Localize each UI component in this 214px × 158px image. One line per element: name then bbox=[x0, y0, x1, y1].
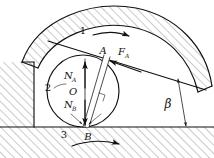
label-link-1: 1 bbox=[80, 25, 86, 36]
beta-angle-dimension bbox=[178, 79, 186, 126]
label-center-O: O bbox=[69, 86, 77, 97]
label-point-B: B bbox=[83, 131, 91, 142]
link1-motion-arrow-icon bbox=[93, 32, 129, 36]
label-force-FA: F A bbox=[117, 46, 130, 59]
diagram-canvas: 1 2 3 A B O F A N A N B β bbox=[0, 0, 214, 158]
label-point-A: A bbox=[98, 45, 106, 56]
mechanism-diagram-figure: 1 2 3 A B O F A N A N B β bbox=[0, 0, 214, 158]
label-force-NB-sub: B bbox=[71, 105, 77, 112]
roller-link-2 bbox=[47, 55, 119, 127]
label-link-2: 2 bbox=[45, 82, 51, 93]
label-angle-beta: β bbox=[164, 97, 172, 111]
label-force-FA-sub: A bbox=[124, 52, 130, 59]
beta-dimension-line bbox=[178, 79, 186, 126]
label-link-3: 3 bbox=[61, 129, 67, 140]
label-force-NA-sub: A bbox=[71, 76, 77, 83]
force-FA-arrow bbox=[110, 61, 141, 72]
